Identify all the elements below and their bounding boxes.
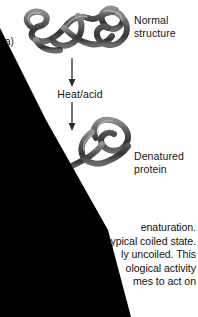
heat-acid-label: Heat/acid	[44, 88, 116, 101]
normal-structure-line1: Normal	[134, 14, 168, 26]
figure-page: a) Heat/acid	[0, 0, 198, 317]
denatured-protein-label: Denatured protein	[134, 150, 196, 175]
arrow-down-icon-1	[64, 58, 80, 88]
denatured-protein-illustration	[62, 112, 140, 174]
normal-structure-line2: structure	[134, 27, 176, 39]
caption-line: mes to act on	[2, 275, 198, 289]
denatured-line1: Denatured	[134, 150, 184, 162]
caption-line: ypical coiled state.	[2, 235, 198, 249]
normal-structure-label: Normal structure	[134, 14, 196, 39]
caption-line: ological activity	[2, 262, 198, 276]
caption-line: enaturation.	[2, 221, 198, 235]
denatured-line2: protein	[134, 163, 167, 175]
normal-protein-illustration	[18, 2, 134, 62]
figure-caption: enaturation. ypical coiled state. ly unc…	[2, 221, 198, 289]
panel-label: a)	[5, 36, 14, 47]
caption-line: ly uncoiled. This	[2, 248, 198, 262]
